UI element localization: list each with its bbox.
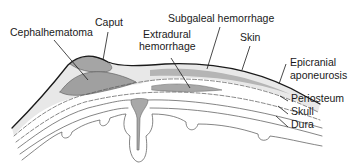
label-caput: Caput [95, 16, 123, 28]
label-periosteum: Periosteum [291, 92, 344, 104]
label-extradural-line2: hemorrhage [139, 40, 196, 52]
label-subgaleal-hemorrhage: Subgaleal hemorrhage [168, 12, 274, 24]
label-extradural-line1: Extradural [143, 28, 191, 40]
label-epicranial-line2: aponeurosis [290, 69, 347, 81]
leader-skin [242, 46, 250, 70]
skull-inner [20, 108, 322, 154]
label-epicranial-line1: Epicranial [290, 56, 336, 68]
label-cephalhematoma: Cephalhematoma [10, 26, 93, 38]
leader-subgaleal [207, 27, 220, 69]
layers [12, 56, 322, 162]
leader-caput [103, 32, 108, 60]
dura-line [22, 114, 322, 162]
label-skin: Skin [240, 31, 260, 43]
leader-epicranial [279, 64, 286, 84]
sagittal-sinus [131, 99, 148, 151]
leader-skull [278, 106, 288, 114]
extradural-region [152, 84, 222, 92]
label-skull: Skull [291, 105, 314, 117]
label-dura: Dura [291, 118, 314, 130]
